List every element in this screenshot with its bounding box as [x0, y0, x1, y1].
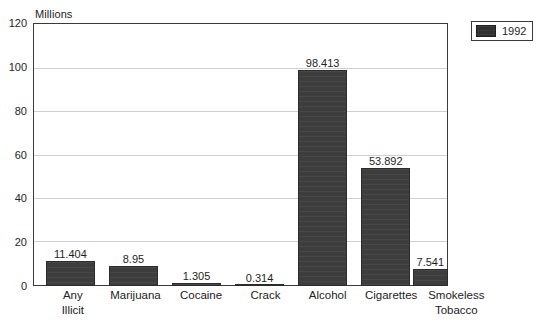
x-label-line-2: Illicit — [31, 303, 114, 318]
x-tick-label-cocaine: Cocaine — [162, 288, 241, 303]
y-tick-label: 40 — [15, 193, 27, 204]
x-label-line-1: Crack — [250, 289, 280, 301]
x-label-line-1: Cocaine — [180, 289, 222, 301]
x-label-line-1: Any — [63, 289, 83, 301]
y-tick-label: 80 — [15, 105, 27, 116]
y-tick-label: 100 — [9, 61, 27, 72]
gridline — [34, 241, 447, 242]
x-label-line-1: Smokeless — [428, 289, 484, 301]
legend-swatch-1992 — [476, 25, 496, 37]
y-tick-label: 20 — [15, 237, 27, 248]
y-tick-label: 60 — [15, 149, 27, 160]
x-axis: Any Illicit Marijuana Cocaine Crack Alco… — [33, 288, 448, 330]
x-label-line-1: Marijuana — [110, 289, 161, 301]
x-label-line-1: Alcohol — [309, 289, 347, 301]
gridlines — [34, 24, 447, 285]
x-tick-label-smokeless-tobacco: Smokeless Tobacco — [407, 288, 507, 318]
legend[interactable]: 1992 — [471, 21, 533, 41]
y-axis: 120 100 80 60 40 20 0 — [0, 23, 31, 286]
legend-label-1992: 1992 — [502, 26, 526, 37]
gridline — [34, 155, 447, 156]
gridline — [34, 111, 447, 112]
bar-chart: Millions 120 100 80 60 40 20 0 11.404 8.… — [0, 0, 539, 330]
gridline — [34, 198, 447, 199]
y-tick-label: 0 — [21, 281, 27, 292]
plot-area — [33, 23, 448, 286]
x-label-line-2: Tobacco — [407, 303, 507, 318]
gridline — [34, 68, 447, 69]
y-tick-label: 120 — [9, 18, 27, 29]
y-axis-unit-caption: Millions — [35, 8, 72, 21]
